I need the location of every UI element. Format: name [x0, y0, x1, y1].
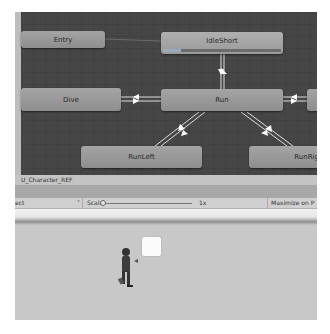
- animator-graph[interactable]: Entry IdleShort Dive Run RunLeft RunRig: [21, 12, 317, 175]
- state-node-runleft[interactable]: RunLeft: [81, 146, 202, 168]
- state-node-runright[interactable]: RunRig: [249, 146, 317, 168]
- scale-slider-track[interactable]: [102, 203, 192, 204]
- screenshot-frame: Entry IdleShort Dive Run RunLeft RunRig …: [15, 12, 317, 320]
- node-label: Entry: [54, 36, 73, 44]
- state-node-dive[interactable]: Dive: [21, 88, 121, 111]
- node-label: RunLeft: [128, 153, 155, 161]
- character-sprite-icon: [110, 244, 170, 304]
- scale-slider-handle[interactable]: [100, 200, 106, 206]
- chevron-down-icon: ˅: [77, 198, 80, 208]
- maximize-on-play-button[interactable]: Maximize on P: [267, 198, 314, 208]
- game-view[interactable]: [15, 209, 317, 320]
- game-view-toolbar: ect ˅ Scale 1x Maximize on P: [15, 198, 317, 209]
- sky-gradient: [15, 209, 317, 225]
- white-cube-icon: [142, 237, 161, 256]
- node-label: RunRig: [294, 153, 317, 161]
- node-label: Run: [215, 96, 228, 104]
- aspect-dropdown[interactable]: ect: [15, 198, 24, 208]
- node-label: Dive: [63, 96, 79, 104]
- state-progress-bar: [163, 49, 281, 52]
- state-node-run[interactable]: Run: [161, 89, 283, 111]
- node-label: IdleShort: [206, 37, 238, 45]
- state-node-right-partial[interactable]: [307, 89, 317, 111]
- animator-path-label: U_Character_REF: [15, 175, 317, 185]
- panel-separator: [15, 185, 317, 198]
- scale-value: 1x: [199, 198, 206, 208]
- state-node-idleshort[interactable]: IdleShort: [161, 32, 283, 54]
- state-node-entry[interactable]: Entry: [21, 31, 105, 48]
